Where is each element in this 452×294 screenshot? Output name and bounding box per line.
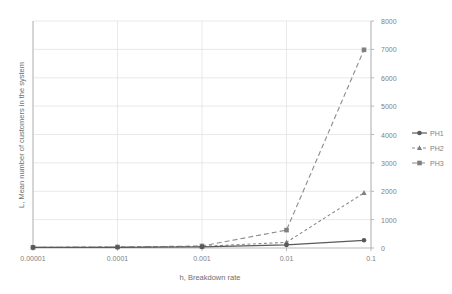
ytick-label: 0 — [381, 245, 385, 252]
legend-label-ph3: PH3 — [430, 160, 444, 167]
ytick-label: 4000 — [381, 132, 397, 139]
xtick-label: 0.001 — [193, 255, 211, 262]
series-ph1-marker — [362, 238, 367, 243]
line-chart: 8000 7000 6000 5000 4000 3000 2000 1000 … — [0, 0, 452, 294]
ytick-label: 2000 — [381, 188, 397, 195]
series-ph1-marker — [284, 243, 289, 248]
right-axis-ticks — [371, 21, 374, 248]
legend-item-ph2[interactable]: PH2 — [412, 145, 444, 152]
legend-square-marker-icon — [417, 161, 422, 166]
chart-legend: PH1 PH2 PH3 — [412, 130, 444, 167]
legend-label-ph1: PH1 — [430, 130, 444, 137]
series-ph1-marker — [115, 245, 120, 250]
ytick-label: 5000 — [381, 103, 397, 110]
series-ph3-marker — [362, 48, 367, 53]
x-axis-title: h, Breakdown rate — [180, 273, 241, 282]
y-axis-title: L, Mean number of customers in the syste… — [17, 62, 26, 208]
ytick-label: 3000 — [381, 160, 397, 167]
xtick-label: 0.1 — [366, 255, 376, 262]
ytick-label: 8000 — [381, 18, 397, 25]
xtick-label: 0.01 — [280, 255, 294, 262]
chart-container: 8000 7000 6000 5000 4000 3000 2000 1000 … — [0, 0, 452, 294]
xtick-label: 0.00001 — [20, 255, 45, 262]
legend-label-ph2: PH2 — [430, 145, 444, 152]
legend-circle-marker-icon — [417, 131, 422, 136]
series-ph3-marker — [284, 228, 289, 233]
series-ph1-marker — [200, 245, 205, 250]
xtick-label: 0.0001 — [107, 255, 129, 262]
ytick-label: 7000 — [381, 46, 397, 53]
ytick-label: 1000 — [381, 217, 397, 224]
legend-item-ph1[interactable]: PH1 — [412, 130, 444, 137]
series-ph1-marker — [31, 245, 36, 250]
legend-item-ph3[interactable]: PH3 — [412, 160, 444, 167]
ytick-label: 6000 — [381, 75, 397, 82]
